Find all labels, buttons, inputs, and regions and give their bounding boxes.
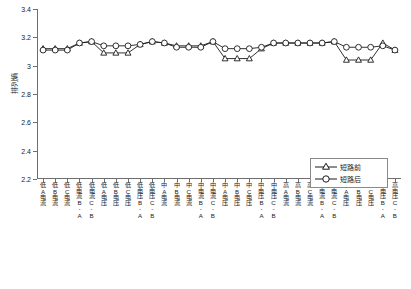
x-category-label: 低电压C-B	[149, 182, 156, 219]
x-category-label: 低B电压	[112, 182, 119, 205]
data-point	[380, 43, 386, 49]
data-point	[137, 42, 143, 48]
data-point	[174, 44, 180, 50]
data-point	[77, 40, 83, 46]
data-point	[52, 47, 58, 53]
data-point	[198, 44, 204, 50]
x-category-label: 低电流C-B	[88, 182, 95, 219]
data-point	[64, 47, 70, 53]
data-point	[271, 40, 277, 46]
data-point	[307, 40, 313, 46]
x-category-label: 中A电压	[222, 182, 229, 205]
x-category-label: 低A电压	[100, 182, 107, 205]
circle-marker-icon	[314, 173, 338, 185]
y-tick-label: 2.2	[21, 176, 31, 183]
data-point	[101, 43, 107, 49]
data-point	[259, 44, 265, 50]
data-point	[186, 44, 192, 50]
data-point	[162, 40, 168, 46]
y-tick-label: 2.8	[21, 91, 31, 98]
legend-label-before: 短路前	[340, 162, 361, 172]
legend-item-before: 短路前	[314, 161, 384, 173]
data-point	[295, 40, 301, 46]
y-axis-title: 排列熵	[9, 53, 19, 113]
y-tick-label: 3.4	[21, 6, 31, 13]
x-category-label: 中C电流	[185, 182, 192, 205]
x-category-label: 中C电压	[246, 182, 253, 205]
data-point	[222, 46, 228, 52]
data-point	[113, 43, 119, 49]
data-point	[89, 39, 95, 45]
x-category-label: 中电压B-A	[258, 182, 265, 219]
data-point	[234, 46, 240, 52]
x-category-label: 低电流B-A	[76, 182, 83, 219]
series-line-短路前	[43, 42, 395, 60]
y-tick-label: 2.6	[21, 119, 31, 126]
x-category-label: 高B电流	[294, 182, 301, 205]
y-tick-label: 3	[27, 62, 31, 69]
data-point	[368, 44, 374, 50]
y-tick-label: 2.4	[21, 147, 31, 154]
x-category-label: 中B电流	[173, 182, 180, 205]
x-category-label: 低C电压	[125, 182, 132, 205]
x-category-label: 中电流C-B	[209, 182, 216, 219]
plot-area: 2.22.42.62.833.23.4	[37, 9, 401, 179]
x-category-label: 中电流B-A	[197, 182, 204, 219]
data-point	[283, 40, 289, 46]
triangle-marker-icon	[314, 161, 338, 173]
y-tick	[33, 179, 37, 180]
x-category-label: 高电压C-B	[391, 182, 398, 219]
data-point	[331, 39, 337, 45]
chart-legend: 短路前 短路后	[310, 158, 388, 188]
x-category-label: 低A电流	[40, 182, 47, 205]
legend-label-after: 短路后	[340, 174, 361, 184]
data-point	[210, 39, 216, 45]
series-lines	[37, 9, 401, 179]
data-point	[344, 44, 350, 50]
data-point	[125, 43, 131, 49]
data-point	[356, 44, 362, 50]
x-axis-category-labels: 低A电流低B电流低C电流低电流B-A低电流C-B低A电压低B电压低C电压低电压B…	[37, 182, 401, 282]
permutation-entropy-chart: 排列熵 2.22.42.62.833.23.4 低A电流低B电流低C电流低电流B…	[0, 0, 411, 289]
data-point	[149, 39, 155, 45]
data-point	[40, 47, 46, 53]
data-point	[319, 40, 325, 46]
x-category-label: 高A电流	[282, 182, 289, 205]
x-category-label: 低B电流	[52, 182, 59, 205]
y-tick-label: 3.2	[21, 34, 31, 41]
x-category-label: 中电压C-B	[270, 182, 277, 219]
x-category-label: 中B电压	[234, 182, 241, 205]
data-point	[246, 46, 252, 52]
data-point	[392, 47, 398, 53]
legend-item-after: 短路后	[314, 173, 384, 185]
x-category-label: 中A电流	[161, 182, 168, 205]
x-category-label: 低电压B-A	[137, 182, 144, 219]
x-category-label: 低C电流	[64, 182, 71, 205]
